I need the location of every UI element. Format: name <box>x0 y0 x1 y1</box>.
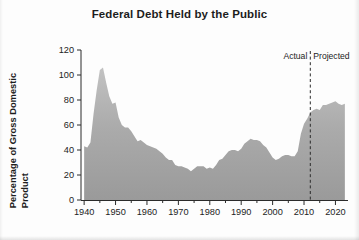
x-tick-label: 1950 <box>105 207 125 217</box>
y-axis-label: Percentage of Gross Domestic Product <box>18 40 58 208</box>
y-tick-label: 80 <box>64 95 74 105</box>
x-tick-label: 2020 <box>325 207 345 217</box>
x-tick-label: 2000 <box>262 207 282 217</box>
annotation-projected-label: Projected <box>313 51 350 61</box>
x-tick-label: 1980 <box>200 207 220 217</box>
y-tick-label: 100 <box>59 70 74 80</box>
chart-figure: Federal Debt Held by the Public Percenta… <box>0 0 359 240</box>
y-axis-label-line-2: Product <box>21 173 30 208</box>
chart-title: Federal Debt Held by the Public <box>0 8 359 20</box>
y-axis-ticks: 020406080100120 <box>59 45 81 205</box>
x-axis-ticks: 194019501960197019801990200020102020 <box>74 200 346 217</box>
x-tick-label: 1960 <box>137 207 157 217</box>
scan-edge-left <box>0 0 3 240</box>
y-tick-label: 40 <box>64 145 74 155</box>
y-tick-label: 0 <box>69 195 74 205</box>
annotation-actual-label: Actual <box>283 51 307 61</box>
y-tick-label: 20 <box>64 170 74 180</box>
y-tick-label: 60 <box>64 120 74 130</box>
x-tick-label: 2010 <box>294 207 314 217</box>
data-area-series <box>84 68 345 201</box>
x-tick-label: 1940 <box>74 207 94 217</box>
scan-edge-right <box>354 0 359 240</box>
x-tick-label: 1990 <box>231 207 251 217</box>
scan-edge-bottom <box>0 236 359 240</box>
y-axis-label-line-1: Percentage of Gross Domestic <box>9 73 18 208</box>
y-tick-label: 120 <box>59 45 74 55</box>
x-tick-label: 1970 <box>168 207 188 217</box>
